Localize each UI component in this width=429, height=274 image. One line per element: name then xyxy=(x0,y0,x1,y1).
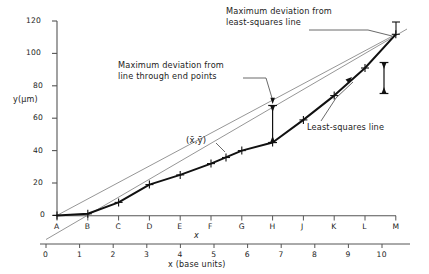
x-unit-label-0: 0 xyxy=(43,250,48,259)
centroid-label: (x̄,ȳ) xyxy=(186,135,206,146)
y-tick-label-80: 80 xyxy=(33,81,43,90)
annotation-max-deviation-least-squares-line2: least-squares line xyxy=(226,17,301,28)
x-unit-label-9: 9 xyxy=(346,250,351,259)
x-unit-label-5: 5 xyxy=(211,250,216,259)
x-letter-label-f: F xyxy=(208,222,213,231)
x-letter-label-c: C xyxy=(116,222,122,231)
x-unit-label-4: 4 xyxy=(178,250,183,259)
x-axis-letters-title: x xyxy=(194,231,199,240)
y-axis-ticks xyxy=(52,21,57,215)
annotation-least-squares-line: Least-squares line xyxy=(307,122,384,133)
x-letter-label-l: L xyxy=(362,222,366,231)
x-letter-label-b: B xyxy=(85,222,90,231)
x-letter-label-m: M xyxy=(393,222,400,231)
y-tick-label-60: 60 xyxy=(33,113,43,122)
x-letter-label-j: J xyxy=(301,222,303,231)
x-axis-units-title: x (base units) xyxy=(168,260,226,269)
x-unit-label-6: 6 xyxy=(245,250,250,259)
y-tick-label-100: 100 xyxy=(26,48,41,57)
chart-canvas xyxy=(0,0,429,274)
y-tick-label-40: 40 xyxy=(33,146,43,155)
x-axis-units-ticks xyxy=(46,244,382,248)
max-deviation-end-points-arrow xyxy=(268,106,277,143)
annotation-max-deviation-least-squares-line1: Maximum deviation from xyxy=(226,6,332,17)
y-axis-title: y(µm) xyxy=(13,95,38,104)
annotation-max-deviation-end-points-line2: line through end points xyxy=(118,71,217,82)
x-letter-label-d: D xyxy=(146,222,152,231)
x-letter-label-e: E xyxy=(177,222,182,231)
x-letter-label-k: K xyxy=(331,222,336,231)
y-tick-label-120: 120 xyxy=(26,16,41,25)
x-axis-letters-ticks xyxy=(57,216,396,221)
x-unit-label-10: 10 xyxy=(377,250,387,259)
x-unit-label-2: 2 xyxy=(110,250,115,259)
deviation-tick-at-m xyxy=(392,22,400,33)
chart-figure: 120 100 80 60 40 20 0 y(µm) A B C D E F … xyxy=(0,0,429,274)
x-letter-label-g: G xyxy=(239,222,245,231)
max-deviation-least-squares-arrow xyxy=(380,63,389,94)
y-tick-label-0: 0 xyxy=(40,210,45,219)
x-unit-label-7: 7 xyxy=(278,250,283,259)
leader-line-least-squares-deviation xyxy=(309,30,392,36)
least-squares-line xyxy=(46,29,407,240)
x-unit-label-3: 3 xyxy=(144,250,149,259)
x-unit-label-1: 1 xyxy=(77,250,82,259)
annotation-max-deviation-end-points-line1: Maximum deviation from xyxy=(118,60,224,71)
y-tick-label-20: 20 xyxy=(33,178,43,187)
leader-line-end-points-deviation xyxy=(243,78,273,100)
x-letter-label-a: A xyxy=(54,222,59,231)
centroid-marker xyxy=(222,154,230,162)
x-letter-label-h: H xyxy=(270,222,276,231)
x-unit-label-8: 8 xyxy=(312,250,317,259)
leader-line-centroid xyxy=(216,143,225,152)
